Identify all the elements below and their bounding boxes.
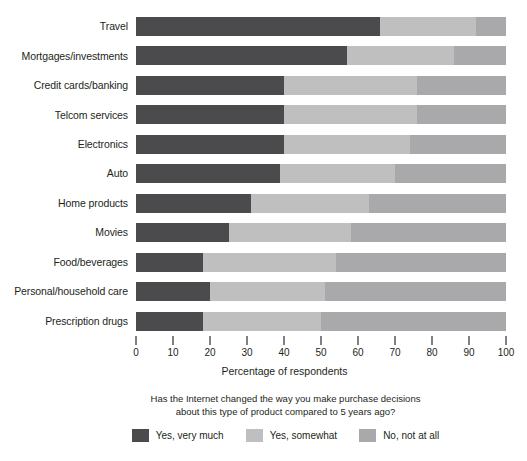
bar-segment <box>136 312 203 331</box>
x-axis-title-text: Percentage of respondents <box>179 365 347 377</box>
x-axis-title: Percentage of respondents <box>0 365 527 377</box>
x-axis-tick-label: 70 <box>389 347 400 358</box>
bar-segment <box>284 135 410 154</box>
category-label: Personal/household care <box>0 285 128 297</box>
legend-swatch-icon <box>132 429 149 442</box>
bar-segment <box>203 312 321 331</box>
legend-question-line-1: Has the Internet changed the way you mak… <box>151 393 421 404</box>
bar-segment <box>417 76 506 95</box>
stacked-bar <box>136 282 506 301</box>
bar-row: Mortgages/investments <box>136 41 506 70</box>
stacked-bar <box>136 194 506 213</box>
bar-row: Credit cards/banking <box>136 71 506 100</box>
bar-segment <box>369 194 506 213</box>
legend-item-label: Yes, very much <box>156 430 224 441</box>
bar-segment <box>136 253 203 272</box>
bar-segment <box>229 223 351 242</box>
bar-row: Travel <box>136 12 506 41</box>
stacked-bar <box>136 164 506 183</box>
legend-question: Has the Internet changed the way you mak… <box>0 393 527 418</box>
x-axis-tick-label: 0 <box>133 347 139 358</box>
x-axis-tick <box>283 336 285 345</box>
x-axis-tick <box>431 336 433 345</box>
legend-item-label: No, not at all <box>383 430 439 441</box>
category-label: Food/beverages <box>0 256 128 268</box>
bar-segment <box>136 105 284 124</box>
x-axis-tick <box>172 336 174 345</box>
bar-segment <box>136 194 251 213</box>
bar-row: Auto <box>136 159 506 188</box>
stacked-bar <box>136 135 506 154</box>
x-axis-tick-label: 60 <box>352 347 363 358</box>
bar-row: Food/beverages <box>136 248 506 277</box>
stacked-bar <box>136 223 506 242</box>
bar-row: Telcom services <box>136 100 506 129</box>
category-label: Mortgages/investments <box>0 50 128 62</box>
legend-items: Yes, very muchYes, somewhatNo, not at al… <box>0 429 527 442</box>
bar-segment <box>325 282 506 301</box>
stacked-bar <box>136 46 506 65</box>
category-label: Credit cards/banking <box>0 79 128 91</box>
bar-segment <box>410 135 506 154</box>
x-axis-tick <box>246 336 248 345</box>
bar-segment <box>351 223 506 242</box>
x-axis-tick <box>209 336 211 345</box>
x-axis-tick <box>357 336 359 345</box>
bar-segment <box>136 17 380 36</box>
x-axis-tick-label: 80 <box>426 347 437 358</box>
plot-area: TravelMortgages/investmentsCredit cards/… <box>136 12 506 336</box>
category-label: Auto <box>0 167 128 179</box>
x-axis-tick <box>468 336 470 345</box>
bar-segment <box>284 105 417 124</box>
bar-segment <box>203 253 336 272</box>
bar-segment <box>336 253 506 272</box>
legend-question-line-2: about this type of product compared to 5… <box>176 406 396 417</box>
bar-segment <box>136 164 280 183</box>
legend-swatch-icon <box>246 429 263 442</box>
legend-item[interactable]: Yes, very much <box>132 429 224 442</box>
bar-segment <box>395 164 506 183</box>
stacked-bar-chart: TravelMortgages/investmentsCredit cards/… <box>0 0 527 461</box>
stacked-bar <box>136 312 506 331</box>
bar-segment <box>380 17 476 36</box>
x-axis-tick-label: 10 <box>167 347 178 358</box>
bar-segment <box>136 135 284 154</box>
bar-segment <box>284 76 417 95</box>
category-label: Travel <box>0 20 128 32</box>
bar-segment <box>251 194 369 213</box>
x-axis-tick <box>135 336 137 345</box>
category-label: Prescription drugs <box>0 315 128 327</box>
x-axis-tick-label: 50 <box>315 347 326 358</box>
x-axis-tick <box>394 336 396 345</box>
bar-segment <box>136 76 284 95</box>
bar-segment <box>454 46 506 65</box>
category-label: Home products <box>0 197 128 209</box>
bar-row: Home products <box>136 189 506 218</box>
bar-segment <box>321 312 506 331</box>
legend: Has the Internet changed the way you mak… <box>0 393 527 442</box>
bar-segment <box>347 46 454 65</box>
bar-row: Personal/household care <box>136 277 506 306</box>
legend-swatch-icon <box>359 429 376 442</box>
bar-segment <box>136 46 347 65</box>
bar-segment <box>136 223 229 242</box>
x-axis-tick <box>320 336 322 345</box>
legend-item[interactable]: No, not at all <box>359 429 439 442</box>
x-axis-tick-label: 30 <box>241 347 252 358</box>
bar-row: Movies <box>136 218 506 247</box>
bar-segment <box>280 164 395 183</box>
category-label: Electronics <box>0 138 128 150</box>
category-label: Movies <box>0 226 128 238</box>
bar-row: Prescription drugs <box>136 307 506 336</box>
stacked-bar <box>136 76 506 95</box>
x-axis-tick-label: 100 <box>498 347 515 358</box>
stacked-bar <box>136 105 506 124</box>
category-label: Telcom services <box>0 109 128 121</box>
legend-item[interactable]: Yes, somewhat <box>246 429 337 442</box>
x-axis-tick-label: 90 <box>463 347 474 358</box>
legend-item-label: Yes, somewhat <box>270 430 337 441</box>
x-axis-tick <box>505 336 507 345</box>
stacked-bar <box>136 17 506 36</box>
stacked-bar <box>136 253 506 272</box>
bar-segment <box>476 17 506 36</box>
